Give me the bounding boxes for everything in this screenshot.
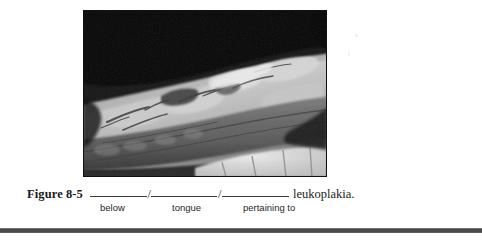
answer-blank-2[interactable] xyxy=(151,196,217,197)
figure-caption: Figure 8-5//leukoplakia. below tongue pe… xyxy=(0,186,482,224)
figure-label: Figure 8-5 xyxy=(27,187,83,201)
section-divider-highlight xyxy=(0,228,482,229)
blank-hint-tongue: tongue xyxy=(172,202,201,213)
section-divider-lowlight xyxy=(0,232,482,233)
scan-speck-icon xyxy=(355,34,358,37)
answer-blank-3[interactable] xyxy=(222,196,289,197)
blank-hint-row: below tongue pertaining to xyxy=(0,202,482,216)
scan-speck-icon xyxy=(348,51,350,56)
page-canvas: Figure 8-5//leukoplakia. below tongue pe… xyxy=(0,0,482,240)
photograph-image xyxy=(83,10,327,177)
answer-blank-1[interactable] xyxy=(90,196,147,197)
caption-trailing-term: leukoplakia. xyxy=(293,187,354,201)
blank-separator-1: / xyxy=(147,187,151,201)
blank-hint-below: below xyxy=(100,202,125,213)
blank-hint-pertaining-to: pertaining to xyxy=(243,202,295,213)
caption-main-line: Figure 8-5//leukoplakia. xyxy=(27,186,354,202)
blank-separator-2: / xyxy=(217,187,221,201)
clinical-photograph-ventral-tongue-leukoplakia xyxy=(83,10,327,177)
